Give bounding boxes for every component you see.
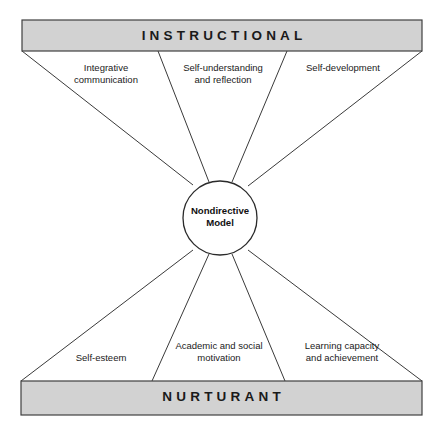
effect-line1: Self-development	[293, 62, 393, 74]
effect-line1: Integrative	[58, 62, 154, 74]
effect-line2: and reflection	[167, 74, 279, 86]
center-circle-label-line2: Model	[178, 217, 262, 229]
effect-line1: Self-understanding	[167, 62, 279, 74]
effect-line1: Self-esteem	[53, 352, 149, 364]
effect-line1: Learning capacity	[288, 340, 396, 352]
effect-line2: and achievement	[288, 352, 396, 364]
effect-line2: communication	[58, 74, 154, 86]
instructional-band-title: INSTRUCTIONAL	[22, 28, 422, 43]
nurturant-band-title: NURTURANT	[21, 389, 422, 404]
nondirective-model-diagram: INSTRUCTIONAL NURTURANT Nondirective Mod…	[0, 0, 441, 429]
nurturant-effect-self-esteem: Self-esteem	[53, 352, 149, 364]
instructional-effect-self-understanding-reflection: Self-understanding and reflection	[167, 62, 279, 86]
nurturant-effect-learning-capacity-achievement: Learning capacity and achievement	[288, 340, 396, 364]
effect-line2: motivation	[162, 352, 276, 364]
center-circle-label-line1: Nondirective	[178, 205, 262, 217]
instructional-effect-self-development: Self-development	[293, 62, 393, 74]
nurturant-effect-academic-social-motivation: Academic and social motivation	[162, 340, 276, 364]
effect-line1: Academic and social	[162, 340, 276, 352]
center-circle-label: Nondirective Model	[178, 205, 262, 230]
instructional-effect-integrative-communication: Integrative communication	[58, 62, 154, 86]
